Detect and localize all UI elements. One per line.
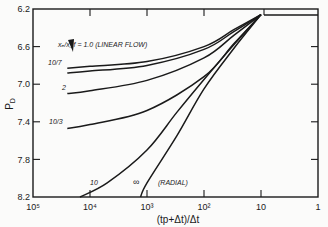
- x-tick-label: 1: [315, 202, 320, 212]
- x-tick-label: 10⁴: [83, 202, 97, 212]
- curve-series: [67, 15, 261, 94]
- svg-text:PD: PD: [4, 98, 16, 110]
- y-ticks-left: [33, 47, 40, 160]
- curve-label-10-7: 10/7: [48, 59, 63, 66]
- curve-label-2: 2: [61, 84, 66, 91]
- y-tick-label: 6.2: [17, 4, 30, 14]
- curve-label-linear: xₑ/x_f = 1.0 (LINEAR FLOW): [57, 41, 147, 49]
- x-tick-label: 10⁵: [26, 202, 40, 212]
- curve-label-10: 10: [90, 179, 98, 186]
- y-tick-label: 7.8: [17, 155, 30, 165]
- curve-series: [67, 15, 261, 129]
- x-ticks-bottom: [90, 190, 261, 197]
- y-ticks-right: [311, 47, 318, 160]
- y-tick-label: 6.6: [17, 42, 30, 52]
- x-tick-label: 10²: [197, 202, 210, 212]
- x-tick-label: 10: [256, 202, 266, 212]
- curve-label-radial: (RADIAL): [158, 179, 188, 187]
- y-axis-label: PD: [4, 98, 16, 110]
- y-tick-label: 8.2: [17, 192, 30, 202]
- x-axis-label: (tp+Δt)/Δt: [157, 214, 200, 225]
- y-tick-label: 7.0: [17, 79, 30, 89]
- x-tick-label: 10³: [140, 202, 153, 212]
- curve-label-inf: ∞: [133, 177, 139, 187]
- chart-svg: 6.2 6.6 7.0 7.4 7.8 8.2 10⁵ 10⁴ 10³ 10² …: [0, 0, 328, 227]
- y-tick-labels: 6.2 6.6 7.0 7.4 7.8 8.2: [17, 4, 30, 202]
- x-tick-labels: 10⁵ 10⁴ 10³ 10² 10 1: [26, 202, 320, 212]
- x-ticks-top: [90, 9, 264, 16]
- y-tick-label: 7.4: [17, 117, 30, 127]
- curve-labels: xₑ/x_f = 1.0 (LINEAR FLOW) 10/7 2 10/3 1…: [48, 41, 188, 187]
- plot-frame: [33, 9, 318, 197]
- curve-label-10-3: 10/3: [49, 118, 63, 125]
